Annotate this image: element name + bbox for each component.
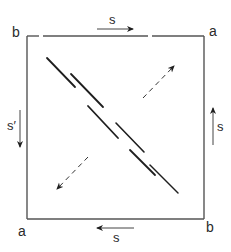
- right-edge-label: s: [217, 119, 224, 134]
- left-edge-arrow: s′: [7, 110, 20, 147]
- bottom-edge-arrow: s: [97, 228, 134, 245]
- diagonal-strands: [47, 58, 178, 193]
- right-edge-arrow: s: [213, 108, 224, 145]
- corner-label-top-left: b: [12, 24, 20, 40]
- strand-5: [130, 150, 155, 175]
- corner-label-top-right: a: [209, 23, 217, 39]
- corner-label-bottom-left: a: [18, 223, 26, 239]
- strand-6: [150, 165, 178, 193]
- corner-label-bottom-right: b: [206, 219, 214, 235]
- top-edge-arrow: s: [97, 12, 133, 29]
- bottom-edge-label: s: [113, 230, 120, 245]
- strand-4: [116, 123, 144, 152]
- dashed-arrow-down-left-icon: [57, 157, 88, 189]
- strand-2: [71, 74, 103, 107]
- square-diagram: b a a b s s s′ s: [0, 0, 231, 252]
- top-edge-label: s: [109, 12, 116, 27]
- left-edge-label: s′: [7, 118, 17, 133]
- strand-3: [88, 106, 118, 138]
- dashed-arrow-up-right-icon: [143, 66, 174, 98]
- strand-1: [47, 58, 75, 87]
